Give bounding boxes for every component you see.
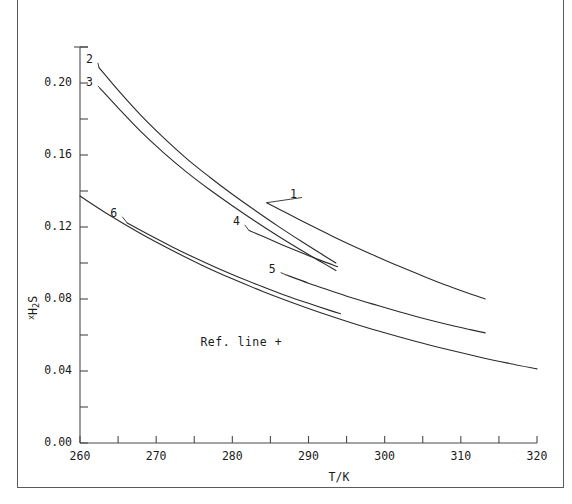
curve-6 <box>127 223 340 314</box>
ref-line-annotation: Ref. line + <box>200 335 282 349</box>
axes-group <box>74 47 537 443</box>
curve-2 <box>99 68 336 263</box>
curve-ref-line <box>80 196 537 369</box>
curves-group <box>80 63 537 369</box>
curve-3 <box>100 88 336 271</box>
leader-line-6 <box>122 217 127 223</box>
leader-line-4 <box>245 225 249 231</box>
y-tick-label: 0.08 <box>16 291 72 305</box>
figure-page: 2602702802903003103200.000.040.080.120.1… <box>0 0 572 504</box>
curve-label-3: 3 <box>86 75 93 89</box>
y-tick-label: 0.12 <box>16 219 72 233</box>
x-tick-label: 310 <box>441 449 481 463</box>
x-tick-label: 270 <box>136 449 176 463</box>
x-tick-label: 260 <box>60 449 100 463</box>
x-tick-label: 290 <box>289 449 329 463</box>
curve-label-5: 5 <box>269 262 276 276</box>
curve-label-4: 4 <box>233 214 240 228</box>
x-axis-title: T/K <box>329 470 350 484</box>
x-tick-label: 280 <box>212 449 252 463</box>
leader-line-3 <box>98 86 100 88</box>
curve-label-6: 6 <box>110 206 117 220</box>
x-tick-label: 300 <box>365 449 405 463</box>
y-tick-label: 0.04 <box>16 363 72 377</box>
leader-line-5 <box>281 273 286 275</box>
y-tick-label: 0.00 <box>16 435 72 449</box>
y-tick-label: 0.16 <box>16 147 72 161</box>
curve-1 <box>267 203 486 299</box>
curve-label-1: 1 <box>290 187 297 201</box>
y-axis-title: xH2S <box>26 296 41 320</box>
x-tick-label: 320 <box>517 449 557 463</box>
leader-line-2 <box>98 63 99 68</box>
curve-5 <box>286 275 486 333</box>
y-tick-label: 0.20 <box>16 75 72 89</box>
curve-label-2: 2 <box>86 52 93 66</box>
